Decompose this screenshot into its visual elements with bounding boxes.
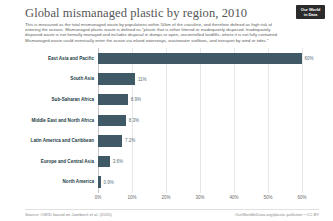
bar-category-label: South Asia — [25, 76, 98, 82]
chart-card: Global mismanaged plastic by region, 201… — [0, 0, 333, 221]
x-axis-tick-label: 50% — [263, 195, 272, 200]
bar-track: 0.9% — [98, 172, 319, 193]
bar-category-label: Middle East and North Africa — [25, 118, 98, 124]
bar-row[interactable]: Middle East and North Africa8.3% — [25, 110, 319, 131]
bar-value-label: 0.9% — [104, 180, 114, 185]
bar-track: 8.3% — [98, 110, 319, 131]
bar-track: 60% — [98, 48, 319, 69]
bar-row[interactable]: South Asia11% — [25, 69, 319, 90]
bar-value-label: 7.2% — [125, 138, 135, 143]
bar-category-label: Latin America and Caribbean — [25, 138, 98, 144]
bar[interactable] — [98, 115, 126, 127]
x-axis-tick-label: 60% — [297, 195, 306, 200]
bar[interactable] — [98, 176, 101, 188]
page-title: Global mismanaged plastic by region, 201… — [25, 6, 285, 20]
bar-row[interactable]: Europe and Central Asia3.6% — [25, 151, 319, 172]
x-axis-tick-label: 40% — [229, 195, 238, 200]
bar-value-label: 3.6% — [113, 159, 123, 164]
footer-source: Source: OWID based on Jambeck et al. (20… — [25, 212, 112, 217]
x-axis-tick-label: 10% — [127, 195, 136, 200]
x-axis-tick-label: 20% — [161, 195, 170, 200]
bar-value-label: 8.9% — [131, 97, 141, 102]
plot-wrapper: East Asia and Pacific60%South Asia11%Sub… — [25, 48, 319, 208]
x-axis-tick-label: 0% — [95, 195, 102, 200]
bar-category-label: Sub-Saharan Africa — [25, 97, 98, 103]
bar-category-label: Europe and Central Asia — [25, 159, 98, 165]
bar[interactable] — [98, 156, 110, 168]
bar-row[interactable]: Latin America and Caribbean7.2% — [25, 131, 319, 152]
bar-rows: East Asia and Pacific60%South Asia11%Sub… — [25, 48, 319, 192]
plot-area: East Asia and Pacific60%South Asia11%Sub… — [25, 48, 319, 192]
bar-track: 11% — [98, 69, 319, 90]
chart-header: Global mismanaged plastic by region, 201… — [8, 6, 325, 43]
x-axis-tick-label: 30% — [195, 195, 204, 200]
bar[interactable] — [98, 135, 122, 147]
owid-logo[interactable]: Our World in Data — [296, 5, 325, 19]
bar-track: 8.9% — [98, 89, 319, 110]
bar-row[interactable]: Sub-Saharan Africa8.9% — [25, 89, 319, 110]
bar[interactable] — [98, 94, 128, 106]
bar[interactable] — [98, 73, 135, 85]
owid-logo-line2: in Data — [304, 12, 317, 17]
footer-link[interactable]: OurWorldInData.org/plastic-pollution • C… — [235, 212, 319, 217]
bar[interactable] — [98, 53, 302, 65]
x-axis: 0%10%20%30%40%50%60% — [98, 193, 319, 209]
bar-track: 7.2% — [98, 131, 319, 152]
bar-value-label: 60% — [305, 56, 314, 61]
chart-subtitle: This is measured as the total mismanaged… — [25, 22, 285, 44]
bar-row[interactable]: East Asia and Pacific60% — [25, 48, 319, 69]
bar-value-label: 11% — [138, 77, 147, 82]
bar-category-label: East Asia and Pacific — [25, 56, 98, 62]
bar-category-label: North America — [25, 179, 98, 185]
bar-value-label: 8.3% — [129, 118, 139, 123]
bar-row[interactable]: North America0.9% — [25, 172, 319, 193]
bar-track: 3.6% — [98, 151, 319, 172]
chart-footer: Source: OWID based on Jambeck et al. (20… — [25, 209, 319, 218]
